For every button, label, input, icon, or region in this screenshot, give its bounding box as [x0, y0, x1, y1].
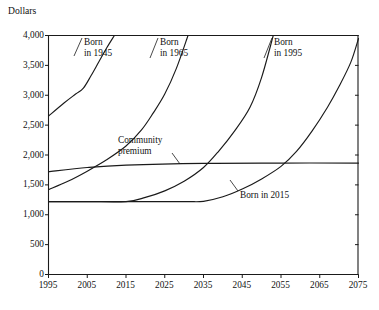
series-line-born-in-1995 — [49, 36, 274, 202]
series-lines — [49, 36, 359, 202]
leader-born-1945 — [74, 38, 82, 56]
series-line-born-in-2015 — [49, 38, 359, 201]
leader-community-premium — [172, 153, 180, 164]
series-line-born-in-1945 — [49, 36, 115, 117]
chart-figure: Dollars 4,000 3,500 3,000 2,500 2,000 1,… — [0, 0, 379, 310]
leader-born-1965 — [150, 38, 158, 58]
series-line-born-in-1965 — [49, 36, 189, 190]
plot-canvas — [0, 0, 379, 310]
leader-born-2015 — [230, 180, 238, 191]
